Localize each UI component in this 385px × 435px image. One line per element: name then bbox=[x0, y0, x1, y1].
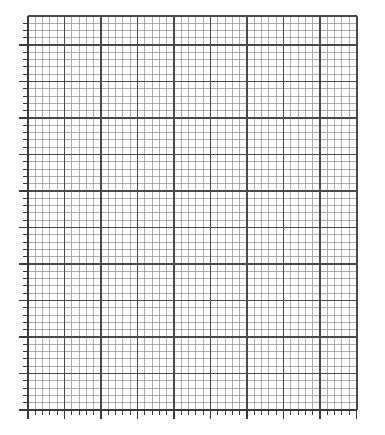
graph-paper-figure: Blank Graph Paper Grid bbox=[0, 0, 385, 435]
grid-canvas bbox=[0, 0, 385, 435]
